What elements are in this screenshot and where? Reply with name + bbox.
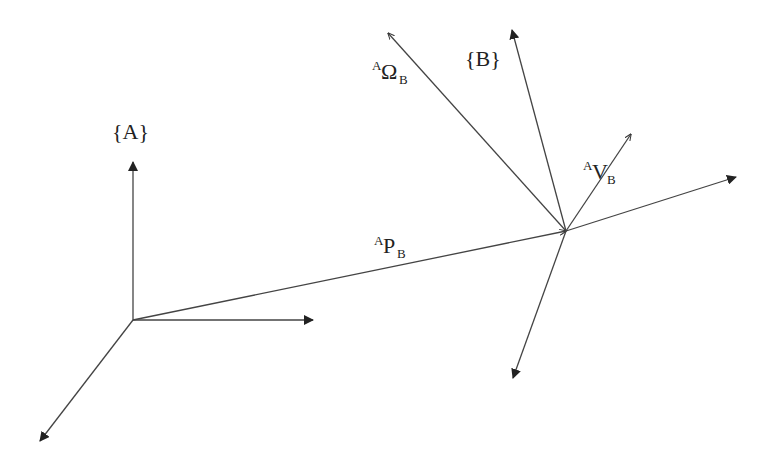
svg-text:B: B: [607, 172, 616, 187]
position-label: A P B: [374, 233, 406, 261]
velocity-label: A V B: [583, 158, 616, 187]
svg-text:Ω: Ω: [381, 59, 397, 84]
omega-label: A Ω B: [372, 58, 408, 87]
svg-text:B: B: [397, 246, 406, 261]
svg-text:P: P: [383, 233, 395, 258]
frame-b-label: {B}: [465, 46, 501, 71]
frame-a-label: {A}: [112, 119, 149, 144]
frame-b-axes: [512, 30, 736, 378]
position-vector: [133, 231, 566, 320]
frame-a-x-axis: [40, 320, 133, 441]
frame-b-x-axis: [566, 177, 736, 231]
svg-text:B: B: [399, 72, 408, 87]
frame-b-y-axis: [513, 231, 566, 378]
frame-a-axes: [40, 162, 313, 441]
kinematics-diagram: {A} {B} A Ω B A V B A P B: [0, 0, 768, 465]
svg-text:V: V: [592, 159, 608, 184]
